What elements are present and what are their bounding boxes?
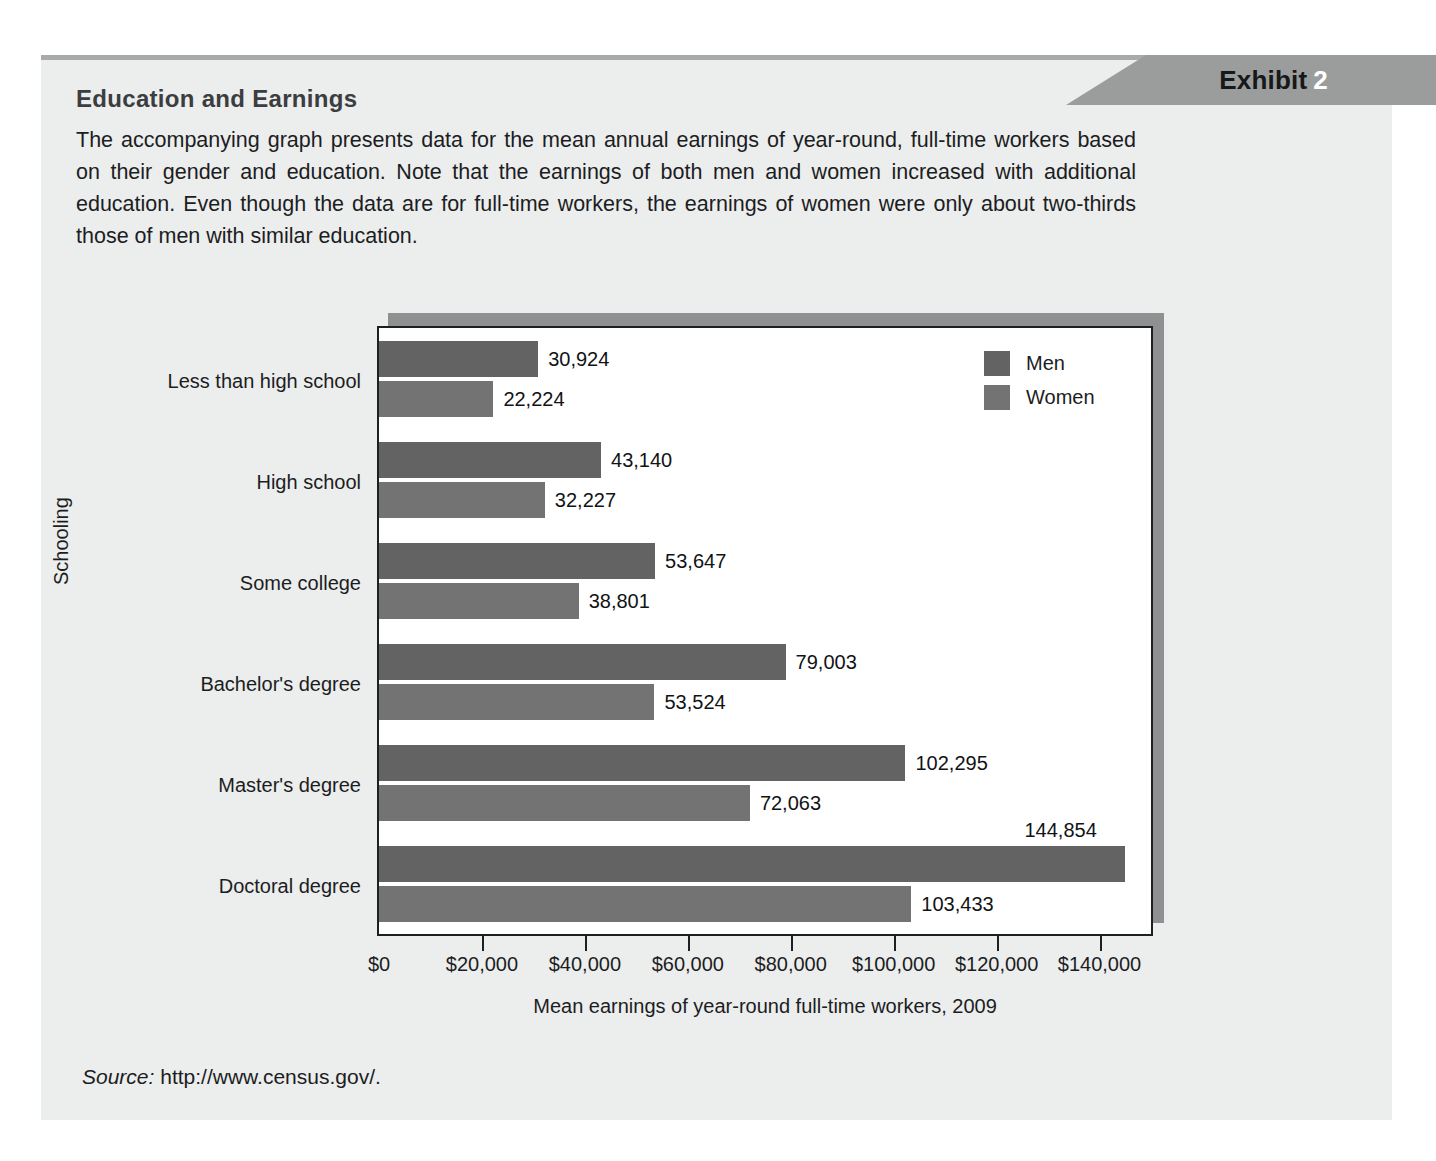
- x-tick-label-2: $40,000: [549, 953, 621, 976]
- bar-value-women-3: 38,801: [589, 589, 650, 612]
- x-tick-mark-1: [482, 936, 484, 951]
- x-tick-label-0: $0: [368, 953, 390, 976]
- bar-women-3: [379, 583, 579, 619]
- bar-women-1: [379, 381, 493, 417]
- bar-women-5: [379, 785, 750, 821]
- y-tick-1: Less than high school: [168, 369, 361, 392]
- page-title: Education and Earnings: [76, 85, 357, 113]
- bar-women-2: [379, 482, 545, 518]
- bar-men-3: [379, 543, 655, 579]
- bar-women-4: [379, 684, 654, 720]
- source-line: Source: http://www.census.gov/.: [82, 1065, 381, 1089]
- y-tick-3: Some college: [240, 571, 361, 594]
- exhibit-banner-text: Exhibit2: [1219, 65, 1328, 96]
- source-url: http://www.census.gov/.: [160, 1065, 381, 1088]
- bar-value-women-6: 103,433: [921, 892, 993, 915]
- bar-value-men-5: 102,295: [915, 751, 987, 774]
- bar-men-2: [379, 442, 601, 478]
- bar-value-women-4: 53,524: [664, 690, 725, 713]
- exhibit-banner-label: Exhibit: [1219, 65, 1307, 95]
- bar-value-women-2: 32,227: [555, 488, 616, 511]
- bar-value-men-1: 30,924: [548, 347, 609, 370]
- bar-value-women-1: 22,224: [503, 387, 564, 410]
- x-tick-label-7: $140,000: [1058, 953, 1141, 976]
- bar-men-5: [379, 745, 905, 781]
- legend-item-men: Men: [984, 346, 1134, 380]
- exhibit-description: The accompanying graph presents data for…: [76, 124, 1136, 252]
- plot-inner: 30,92422,22443,14032,22753,64738,80179,0…: [379, 328, 1151, 934]
- y-tick-6: Doctoral degree: [219, 874, 361, 897]
- legend-label-women: Women: [1026, 386, 1095, 409]
- x-tick-label-4: $80,000: [755, 953, 827, 976]
- bar-women-6: [379, 886, 911, 922]
- bar-value-men-3: 53,647: [665, 549, 726, 572]
- x-tick-mark-6: [997, 936, 999, 951]
- x-tick-mark-2: [585, 936, 587, 951]
- x-tick-label-5: $100,000: [852, 953, 935, 976]
- plot-area: 30,92422,22443,14032,22753,64738,80179,0…: [377, 326, 1153, 936]
- y-tick-4: Bachelor's degree: [200, 672, 361, 695]
- x-tick-mark-5: [894, 936, 896, 951]
- bar-men-6: [379, 846, 1125, 882]
- x-tick-label-6: $120,000: [955, 953, 1038, 976]
- y-axis-tick-labels: Less than high schoolHigh schoolSome col…: [95, 330, 367, 913]
- x-tick-label-1: $20,000: [446, 953, 518, 976]
- chart-legend: Men Women: [984, 346, 1134, 414]
- x-tick-mark-3: [688, 936, 690, 951]
- x-tick-mark-7: [1100, 936, 1102, 951]
- chart-figure: Schooling Less than high schoolHigh scho…: [55, 255, 1165, 1045]
- x-axis-ticks: [377, 936, 1153, 954]
- bar-men-4: [379, 644, 786, 680]
- bar-value-men-6: 144,854: [1025, 818, 1097, 841]
- bar-value-men-2: 43,140: [611, 448, 672, 471]
- x-tick-mark-4: [791, 936, 793, 951]
- exhibit-panel: Education and Earnings The accompanying …: [41, 55, 1392, 1120]
- bar-value-women-5: 72,063: [760, 791, 821, 814]
- exhibit-banner-number: 2: [1313, 65, 1328, 95]
- x-axis-tick-labels: $0$20,000$40,000$60,000$80,000$100,000$1…: [377, 953, 1153, 983]
- x-axis-title: Mean earnings of year-round full-time wo…: [377, 995, 1153, 1018]
- legend-swatch-men: [984, 351, 1010, 376]
- x-tick-label-3: $60,000: [652, 953, 724, 976]
- legend-item-women: Women: [984, 380, 1134, 414]
- y-tick-5: Master's degree: [218, 773, 361, 796]
- y-tick-2: High school: [256, 470, 361, 493]
- bar-value-men-4: 79,003: [796, 650, 857, 673]
- bar-men-1: [379, 341, 538, 377]
- y-axis-title: Schooling: [50, 497, 73, 585]
- source-label: Source:: [82, 1065, 154, 1088]
- legend-swatch-women: [984, 385, 1010, 410]
- legend-label-men: Men: [1026, 352, 1065, 375]
